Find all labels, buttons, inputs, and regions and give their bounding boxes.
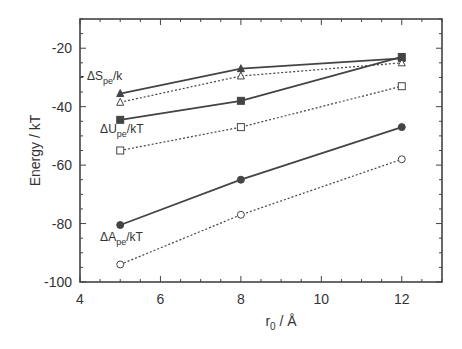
x-tick-label: 8 xyxy=(237,291,245,307)
circle-marker xyxy=(237,176,244,183)
x-tick-label: 4 xyxy=(76,291,84,307)
circle-marker xyxy=(398,156,405,163)
y-tick-label: -40 xyxy=(52,99,72,115)
series-annotation: ΔUpe/kT xyxy=(100,122,144,139)
circle-marker xyxy=(117,222,124,229)
x-tick-label: 6 xyxy=(157,291,165,307)
y-tick-label: -100 xyxy=(44,274,72,290)
x-tick-label: 10 xyxy=(314,291,330,307)
y-axis-label: Energy / kT xyxy=(27,114,43,186)
series-line xyxy=(120,127,402,225)
circle-marker xyxy=(117,261,124,268)
energy-chart: 4681012-100-80-60-40-20Energy / kTr0 / Å… xyxy=(0,0,462,349)
series-annotation: - ΔSpe/k xyxy=(80,69,123,86)
square-marker xyxy=(398,53,405,60)
square-marker xyxy=(237,124,244,131)
y-tick-label: -60 xyxy=(52,157,72,173)
series-line xyxy=(120,57,402,120)
y-tick-label: -20 xyxy=(52,40,72,56)
circle-marker xyxy=(398,124,405,131)
y-tick-label: -80 xyxy=(52,216,72,232)
plot-area: 4681012-100-80-60-40-20Energy / kTr0 / Å… xyxy=(27,19,442,332)
series-line xyxy=(120,159,402,264)
circle-marker xyxy=(237,211,244,218)
x-tick-label: 12 xyxy=(394,291,410,307)
series-line xyxy=(120,58,402,93)
square-marker xyxy=(117,116,124,123)
x-axis-label: r0 / Å xyxy=(265,313,297,332)
square-marker xyxy=(237,97,244,104)
triangle-marker xyxy=(117,98,124,105)
square-marker xyxy=(117,147,124,154)
square-marker xyxy=(398,83,405,90)
series-annotation: ΔApe/kT xyxy=(100,230,143,247)
